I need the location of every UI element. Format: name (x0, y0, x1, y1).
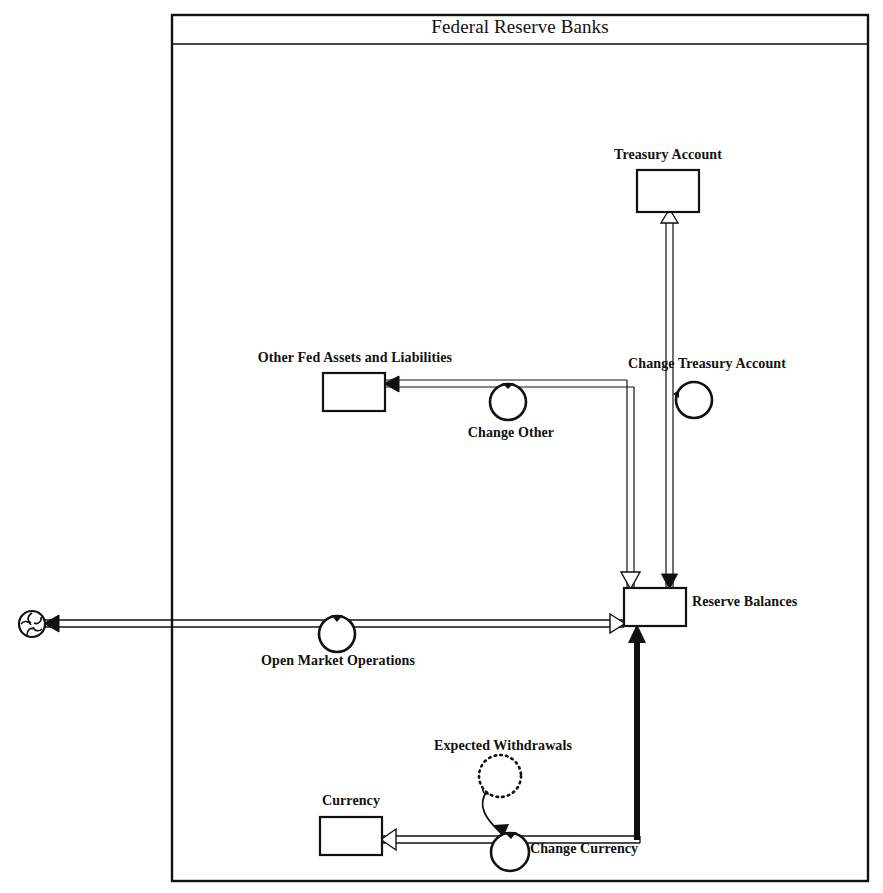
valve-change-currency[interactable] (491, 832, 529, 871)
stock-label-currency: Currency (322, 794, 380, 808)
stock-label-other-fed-assets-and-liabilities: Other Fed Assets and Liabilities (258, 351, 452, 365)
auxiliary-expected-withdrawals[interactable] (479, 755, 521, 797)
flow-label-change-treasury-account: Change Treasury Account (628, 357, 786, 371)
flow-label-change-currency: Change Currency (530, 842, 638, 856)
diagram-canvas (0, 0, 883, 893)
stock-label-treasury-account: Treasury Account (614, 148, 722, 162)
source-cloud-icon (19, 611, 45, 637)
valve-change-treasury-account[interactable] (673, 382, 712, 418)
stock-other-fed-assets-and-liabilities[interactable] (323, 373, 385, 411)
valve-open-market-operations[interactable] (319, 615, 355, 652)
stock-reserve-balances[interactable] (624, 588, 686, 626)
stock-currency[interactable] (320, 817, 382, 855)
flow-label-open-market-operations: Open Market Operations (261, 654, 415, 668)
flow-pipe-change-currency (381, 624, 646, 850)
valve-change-other[interactable] (490, 383, 526, 420)
stock-label-reserve-balances: Reserve Balances (692, 595, 797, 609)
auxiliary-label-expected-withdrawals: Expected Withdrawals (434, 739, 572, 753)
stock-treasury-account[interactable] (637, 170, 699, 212)
page-title: Federal Reserve Banks (431, 17, 608, 36)
flow-label-change-other: Change Other (468, 426, 554, 440)
